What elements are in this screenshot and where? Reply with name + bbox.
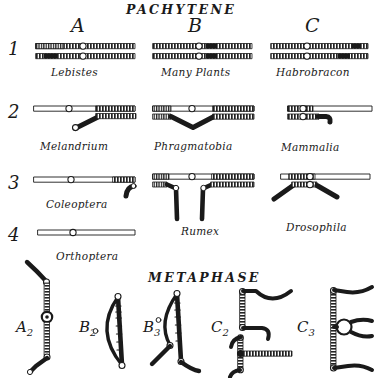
metaphase-figure-c2 bbox=[230, 289, 292, 378]
pachytene-c3-drosophila bbox=[274, 174, 370, 200]
pachytene-c2-mammalia bbox=[288, 106, 372, 123]
pachytene-b2-phragmatobia bbox=[153, 106, 254, 128]
chromosome-pairing-figure: PACHYTENE A B C 1 2 3 4 Lebistes Many Pl… bbox=[0, 0, 378, 378]
metaphase-figure-c3 bbox=[331, 287, 373, 371]
pachytene-a3-coleoptera bbox=[34, 177, 136, 197]
pachytene-a2-melandrium bbox=[34, 106, 136, 131]
metaphase-figure-a2 bbox=[27, 262, 52, 375]
pachytene-b1-many-plants bbox=[153, 43, 252, 59]
metaphase-figure-b3 bbox=[152, 291, 199, 372]
chromosome-drawings bbox=[0, 0, 378, 378]
metaphase-figure-b2 bbox=[93, 294, 125, 369]
pachytene-a4-orthoptera bbox=[38, 229, 135, 235]
pachytene-c1-habrobracon bbox=[271, 43, 368, 59]
pachytene-a1-lebistes bbox=[36, 43, 135, 59]
pachytene-b3-rumex bbox=[153, 174, 254, 220]
